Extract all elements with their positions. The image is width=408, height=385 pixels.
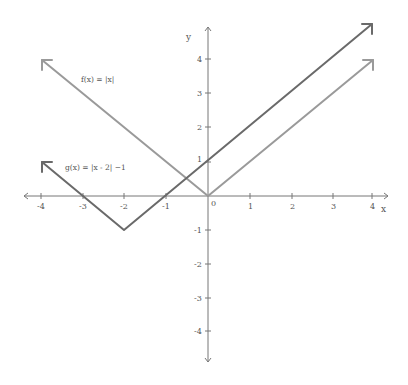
y-tick-label: -2 [194,260,202,269]
x-tick-label: 1 [248,202,253,211]
x-tick-label: -2 [120,202,128,211]
y-tick-label: -4 [194,327,202,336]
y-tick-label: 4 [197,55,202,64]
x-tick-label: 4 [370,202,375,211]
x-tick-label: 0 [211,199,216,208]
f-function-label: f(x) = |x| [81,75,114,84]
graph-canvas: -4 -3 -2 -1 0 1 2 3 4 4 3 2 1 -1 -2 -3 -… [0,0,408,385]
x-tick-label: -3 [79,202,87,211]
x-tick-label: -4 [37,202,45,211]
x-axis-label: x [381,204,386,214]
y-tick-label: -3 [194,294,202,303]
y-tick-label: 2 [197,123,202,132]
g-function-label: g(x) = |x - 2| −1 [65,163,126,172]
y-tick-label: -1 [194,226,202,235]
y-tick-label: 3 [197,89,202,98]
x-tick-label: 2 [290,202,295,211]
x-tick-label: 3 [331,202,336,211]
y-axis-label: y [185,32,192,42]
y-tick-label: 1 [197,155,202,164]
x-tick-label: -1 [162,202,170,211]
